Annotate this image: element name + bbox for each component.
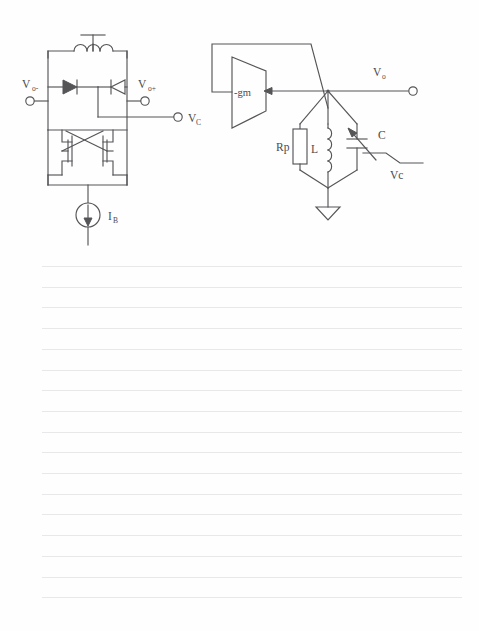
vc-tuning-net bbox=[98, 87, 174, 117]
vo-sublabel: o bbox=[382, 72, 386, 81]
cross-coupling-wires bbox=[62, 131, 107, 151]
c-label: C bbox=[378, 129, 386, 141]
center-tapped-inductor bbox=[48, 44, 127, 58]
vo-minus-label: V bbox=[22, 78, 31, 90]
ground-symbol bbox=[316, 207, 340, 220]
rp-label: Rp bbox=[276, 141, 290, 154]
vo-plus-terminal[interactable] bbox=[127, 97, 149, 105]
tank-resistor bbox=[293, 124, 307, 170]
circuit-figure: V o- V o+ V C bbox=[0, 0, 479, 631]
varactor-right bbox=[98, 80, 127, 94]
source-tail-net bbox=[48, 175, 127, 203]
ib-label: I bbox=[108, 210, 112, 222]
tank-inductor bbox=[328, 124, 332, 188]
vc-terminal[interactable] bbox=[174, 113, 182, 121]
vo-output-terminal[interactable] bbox=[328, 87, 417, 95]
vc-sublabel: C bbox=[196, 118, 201, 127]
vo-label: V bbox=[373, 66, 382, 78]
negative-gm-label: -gm bbox=[234, 87, 251, 98]
vo-minus-sublabel: o- bbox=[32, 84, 39, 93]
varactor-left bbox=[48, 80, 98, 94]
vc-tune-lead bbox=[363, 153, 423, 163]
circuit-cross-coupled-lc-vco: V o- V o+ V C bbox=[22, 35, 201, 245]
tank-varactor bbox=[347, 124, 376, 170]
l-label: L bbox=[311, 143, 318, 155]
vo-minus-terminal[interactable] bbox=[26, 97, 48, 105]
bias-current-source bbox=[76, 203, 100, 245]
circuit-negative-gm-rlc-tank: -gm V o bbox=[212, 44, 423, 220]
ib-sublabel: B bbox=[113, 216, 118, 225]
feedback-loop-wire bbox=[212, 44, 328, 108]
tank-fanout-top bbox=[300, 91, 357, 124]
vc-tune-label: Vc bbox=[390, 169, 403, 181]
nmos-left bbox=[62, 130, 72, 175]
gm-output-arrow bbox=[264, 88, 328, 95]
notebook-page: V o- V o+ V C bbox=[0, 0, 479, 631]
vo-plus-sublabel: o+ bbox=[148, 84, 156, 93]
nmos-right bbox=[103, 130, 113, 175]
vo-plus-label: V bbox=[138, 78, 147, 90]
